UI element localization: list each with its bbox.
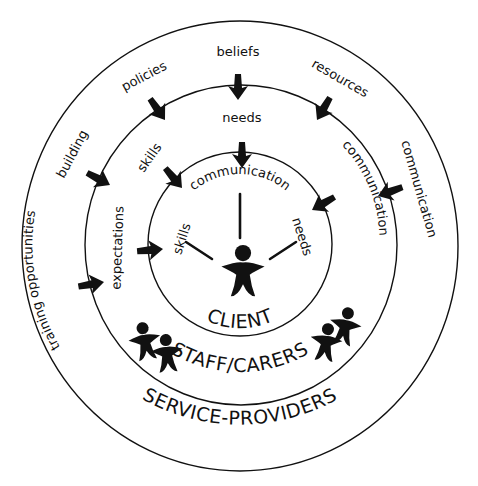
arrow-mid-communication-icon <box>307 188 340 218</box>
inner-label-needs: needs <box>289 216 315 258</box>
inner-label-communication: communication <box>186 162 293 193</box>
arrow-beliefs-icon <box>228 74 248 100</box>
outer-label-building: building <box>53 127 91 180</box>
outer-label-resources: resources <box>309 56 371 101</box>
mid-label-expectations: expectations <box>109 206 127 290</box>
client-label: CLIENT <box>204 304 275 333</box>
arrow-training-icon <box>77 272 106 296</box>
arrow-expectations-icon <box>136 239 164 261</box>
staff-carers-label: STAFF/CARERS <box>168 337 311 376</box>
service-providers-label: SERVICE-PROVIDERS <box>140 383 341 429</box>
mid-label-skills: skills <box>134 140 165 175</box>
mid-label-communication: communication <box>340 137 392 236</box>
client-person-icon <box>221 245 264 296</box>
inner-label-skills: skills <box>170 221 194 256</box>
spoke-needs <box>270 242 296 259</box>
arrow-resources-icon <box>308 92 338 125</box>
outer-label-training-opportunities: training opportunities <box>20 209 62 353</box>
concentric-diagram: communication skills needs CLIENT needs … <box>0 0 478 486</box>
outer-label-communication: communication <box>398 138 440 239</box>
arrow-policies-icon <box>142 93 173 126</box>
staff-person-icon-1 <box>126 320 164 363</box>
outer-label-policies: policies <box>119 58 169 94</box>
arrow-building-icon <box>82 164 114 194</box>
outer-label-beliefs: beliefs <box>217 44 260 59</box>
mid-label-needs: needs <box>222 110 261 125</box>
arrow-mid-skills-icon <box>158 162 190 195</box>
spoke-skills <box>186 242 212 259</box>
